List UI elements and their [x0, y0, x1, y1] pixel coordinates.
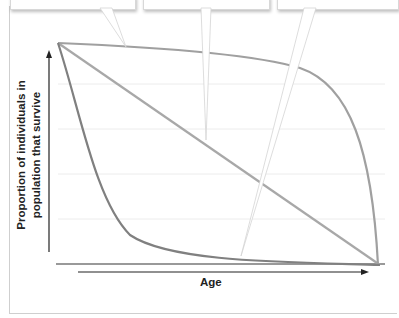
y-axis-label-line2: population that survive	[29, 65, 44, 245]
curve-type-2	[58, 43, 380, 265]
x-axis-arrow	[78, 269, 369, 275]
y-axis-label: Proportion of individuals in population …	[14, 65, 50, 245]
y-axis-label-line1: Proportion of individuals in	[14, 65, 29, 245]
x-axis-label: Age	[200, 276, 222, 288]
